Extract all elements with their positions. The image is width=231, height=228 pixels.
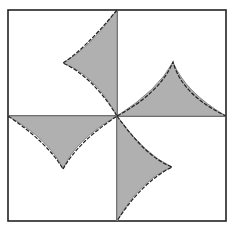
shape-top-right [117,62,226,116]
pinwheel-diagram [0,0,231,228]
shape-bottom-right-fill [117,116,172,221]
shape-top-right-fill [117,62,226,116]
shape-top-left-fill [63,10,117,116]
shape-bottom-right [117,116,172,221]
shape-bottom-left [8,116,117,169]
shape-bottom-left-fill [8,116,117,169]
shape-top-left [63,10,117,116]
